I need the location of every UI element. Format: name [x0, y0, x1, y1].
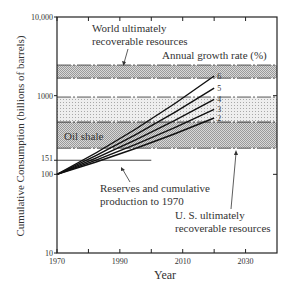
us-label-line2: recoverable resources — [175, 222, 271, 234]
x-tick-label: 2030 — [238, 257, 254, 266]
y-axis-label: Cumulative Consumption (billions of barr… — [14, 35, 27, 236]
world-label-line1: World ultimately — [92, 22, 167, 34]
y-tick-label: 10,000 — [31, 13, 53, 22]
y-tick-label: 10 — [45, 249, 53, 258]
x-axis-label: Year — [154, 268, 176, 282]
growth-curve-label-3: 3 — [217, 105, 221, 114]
x-tick-label: 1970 — [49, 257, 65, 266]
growth-curve-label-2: 2 — [217, 114, 221, 123]
growth-curve-label-4: 4 — [217, 95, 221, 104]
reserves-arrow — [123, 170, 130, 182]
us-label-line1: U. S. ultimately — [175, 209, 245, 221]
reserves-label-line2: production to 1970 — [100, 195, 184, 207]
growth-curve-label-5: 5 — [217, 84, 221, 93]
world-arrow — [124, 49, 128, 63]
x-tick-label: 2010 — [175, 257, 191, 266]
reserves-label-line1: Reserves and cumulative — [100, 182, 210, 194]
growth-rate-label: Annual growth rate (%) — [162, 49, 267, 62]
oil-shale-label: Oil shale — [64, 130, 104, 142]
annotations: World ultimately recoverable resources A… — [14, 22, 271, 282]
x-tick-label: 1990 — [112, 257, 128, 266]
us-arrowhead-icon — [234, 150, 238, 155]
world-label-line2: recoverable resources — [92, 35, 188, 47]
band-0 — [57, 65, 277, 78]
reserves-arrowhead-icon — [121, 167, 125, 171]
y-tick-label: 1000 — [37, 92, 53, 101]
growth-curve-label-6: 6 — [217, 72, 221, 81]
growth-chart: 23456 197019902010203010100151100010,000… — [0, 0, 297, 295]
us-arrow — [231, 153, 236, 209]
band-1 — [57, 97, 277, 122]
y-tick-label: 151 — [41, 154, 53, 163]
y-tick-label: 100 — [41, 170, 53, 179]
